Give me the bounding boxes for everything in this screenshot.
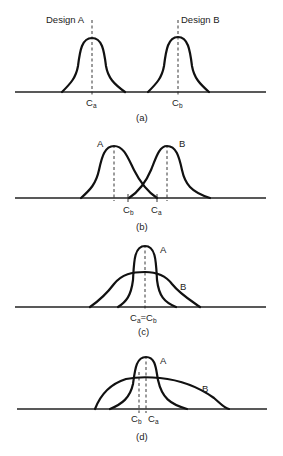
label-a: A	[160, 244, 167, 255]
panel-b: A B Cb Ca (b)	[15, 138, 266, 232]
label-design-a: Design A	[46, 14, 85, 25]
curve-design-b	[148, 37, 209, 92]
caption-c: (c)	[138, 326, 149, 337]
marker-cb: Cb	[123, 204, 134, 216]
marker-cb: Cb	[172, 97, 183, 109]
caption-a: (a)	[136, 112, 148, 123]
label-b: B	[179, 138, 185, 149]
curve-a-narrow	[110, 357, 187, 409]
distribution-diagram: Design A Design B Ca Cb (a) A B Cb Ca (b…	[0, 0, 283, 456]
panel-d: A B Cb Ca (d)	[17, 355, 267, 442]
marker-cb: Cb	[131, 413, 142, 425]
curve-a-narrow	[118, 246, 176, 307]
marker-ca: Ca	[148, 413, 159, 425]
label-b: B	[180, 281, 186, 292]
label-design-b: Design B	[181, 14, 220, 25]
marker-ca: Ca	[151, 204, 162, 216]
label-a: A	[97, 138, 104, 149]
caption-b: (b)	[136, 221, 148, 232]
curve-b	[129, 146, 210, 198]
marker-ca-equals-cb: Ca=Cb	[130, 311, 157, 324]
curve-a	[81, 146, 157, 198]
label-b: B	[202, 383, 208, 394]
curve-design-a	[62, 38, 125, 92]
panel-c: A B Ca=Cb (c)	[15, 244, 266, 337]
label-a: A	[160, 355, 167, 366]
panel-a: Design A Design B Ca Cb (a)	[15, 14, 266, 123]
marker-ca: Ca	[86, 97, 97, 109]
caption-d: (d)	[136, 431, 148, 442]
